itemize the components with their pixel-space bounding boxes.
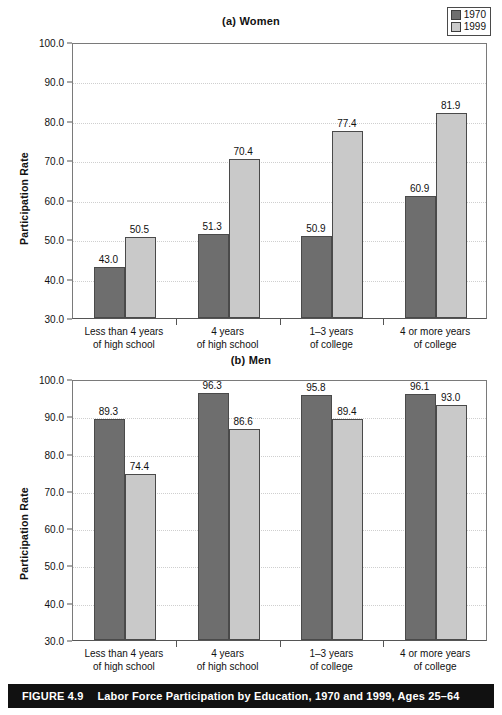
bar-value-label: 86.6 [233, 416, 252, 427]
y-axis-tick-label: 90.0 [22, 77, 64, 88]
gridline [73, 162, 486, 163]
bar-value-label: 89.3 [99, 406, 118, 417]
bar-value-label: 96.1 [410, 381, 429, 392]
x-axis-category-label: 4 yearsof high school [197, 647, 259, 673]
x-axis-category-line: Less than 4 years [84, 647, 163, 660]
y-axis-tick-mark [67, 279, 72, 280]
chart-title-women: (a) Women [0, 15, 502, 27]
x-axis-category-line: of college [400, 660, 470, 673]
bar-1970 [94, 267, 125, 318]
bar-1999 [332, 419, 363, 640]
y-axis-tick-mark [67, 566, 72, 567]
x-axis-tick-mark [176, 319, 177, 325]
y-axis-tick-mark [67, 161, 72, 162]
y-axis-tick-mark [67, 454, 72, 455]
x-axis-category-label: 4 or more yearsof college [400, 647, 470, 673]
y-axis-tick-label: 100.0 [22, 38, 64, 49]
bar-value-label: 74.4 [130, 461, 149, 472]
bar-value-label: 50.5 [130, 224, 149, 235]
y-axis-tick-label: 80.0 [22, 116, 64, 127]
y-axis-tick-label: 90.0 [22, 412, 64, 423]
y-axis-tick-mark [67, 319, 72, 320]
x-axis-category-label: 1–3 yearsof college [309, 647, 353, 673]
bar-1999 [229, 159, 260, 318]
y-axis-tick-mark [67, 240, 72, 241]
chart-title-men: (b) Men [0, 354, 502, 366]
y-axis-tick-mark [67, 43, 72, 44]
bar-value-label: 50.9 [306, 223, 325, 234]
bar-1999 [436, 405, 467, 640]
y-axis-tick-mark [67, 417, 72, 418]
bar-value-label: 95.8 [306, 382, 325, 393]
gridline [73, 83, 486, 84]
y-axis-tick-label: 60.0 [22, 524, 64, 535]
y-axis-tick-mark [67, 603, 72, 604]
chart-panel-women: (a) Women Participation Rate 30.040.050.… [0, 0, 502, 355]
bar-value-label: 51.3 [202, 221, 221, 232]
y-axis-tick-mark [67, 380, 72, 381]
y-axis-tick-label: 40.0 [22, 274, 64, 285]
y-axis-tick-mark [67, 529, 72, 530]
bar-1999 [332, 131, 363, 318]
x-axis-category-line: 4 or more years [400, 647, 470, 660]
bar-1999 [125, 237, 156, 318]
x-axis-category-line: 4 years [197, 647, 259, 660]
bar-value-label: 93.0 [441, 392, 460, 403]
y-axis-tick-label: 80.0 [22, 449, 64, 460]
gridline [73, 123, 486, 124]
y-axis-tick-mark [67, 121, 72, 122]
bar-1970 [94, 419, 125, 640]
bar-value-label: 96.3 [202, 380, 221, 391]
y-axis-tick-mark [67, 491, 72, 492]
figure-container: 1970 1999 (a) Women Participation Rate 3… [0, 0, 502, 715]
bar-1970 [405, 394, 436, 640]
x-axis-tick-mark [280, 319, 281, 325]
y-axis-tick-label: 30.0 [22, 636, 64, 647]
bar-1999 [436, 113, 467, 318]
y-axis-tick-mark [67, 82, 72, 83]
x-axis-category-line: 4 or more years [400, 325, 470, 338]
x-axis-category-line: of college [309, 660, 353, 673]
bar-value-label: 43.0 [99, 254, 118, 265]
y-axis-tick-label: 60.0 [22, 195, 64, 206]
y-axis-tick-mark [67, 641, 72, 642]
y-axis-tick-label: 50.0 [22, 561, 64, 572]
bar-1970 [405, 196, 436, 318]
bar-value-label: 77.4 [337, 118, 356, 129]
bar-1970 [301, 395, 332, 640]
plot-area-men [72, 380, 487, 641]
x-axis-category-line: 1–3 years [309, 647, 353, 660]
y-axis-tick-label: 100.0 [22, 375, 64, 386]
x-axis-category-label: Less than 4 yearsof high school [84, 647, 163, 673]
bar-1999 [125, 474, 156, 640]
y-axis-tick-label: 30.0 [22, 314, 64, 325]
figure-caption: FIGURE 4.9 Labor Force Participation by … [8, 684, 494, 708]
x-axis-category-line: of high school [197, 660, 259, 673]
chart-panel-men: (b) Men Participation Rate 30.040.050.06… [0, 348, 502, 678]
y-axis-tick-label: 50.0 [22, 235, 64, 246]
x-axis-tick-mark [280, 641, 281, 647]
bar-1970 [301, 236, 332, 318]
bar-value-label: 70.4 [233, 146, 252, 157]
x-axis-category-line: of high school [84, 660, 163, 673]
bar-value-label: 81.9 [441, 100, 460, 111]
plot-area-women [72, 43, 487, 319]
bar-1999 [229, 429, 260, 640]
x-axis-category-line: Less than 4 years [84, 325, 163, 338]
figure-caption-number: FIGURE 4.9 [8, 690, 83, 702]
x-axis-category-line: 4 years [197, 325, 259, 338]
bar-1970 [198, 234, 229, 318]
bar-value-label: 60.9 [410, 183, 429, 194]
y-axis-tick-label: 40.0 [22, 598, 64, 609]
y-axis-tick-mark [67, 200, 72, 201]
y-axis-tick-label: 70.0 [22, 156, 64, 167]
y-axis-tick-label: 70.0 [22, 486, 64, 497]
x-axis-tick-mark [383, 641, 384, 647]
x-axis-tick-mark [176, 641, 177, 647]
x-axis-tick-mark [383, 319, 384, 325]
bar-1970 [198, 393, 229, 640]
bar-value-label: 89.4 [337, 406, 356, 417]
figure-caption-text: Labor Force Participation by Education, … [83, 690, 459, 702]
x-axis-category-line: 1–3 years [309, 325, 353, 338]
